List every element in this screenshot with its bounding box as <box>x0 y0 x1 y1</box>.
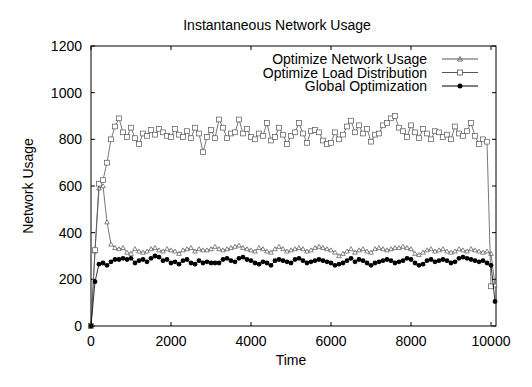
x-tick-label: 4000 <box>235 333 266 349</box>
data-point <box>353 259 358 264</box>
data-point <box>237 117 242 122</box>
data-point <box>153 132 158 137</box>
data-point <box>165 257 170 262</box>
data-point <box>185 257 190 262</box>
data-point <box>165 247 170 251</box>
data-point <box>401 129 406 134</box>
y-tick-label: 600 <box>59 178 83 194</box>
data-point <box>141 257 146 262</box>
data-point <box>297 246 302 250</box>
data-point <box>213 136 218 141</box>
legend: Optimize Network Usage Optimize Load Dis… <box>263 51 478 94</box>
data-point <box>401 258 406 263</box>
plot-frame <box>91 46 496 326</box>
data-point <box>369 263 374 268</box>
data-point <box>357 123 362 128</box>
data-point <box>217 117 222 122</box>
data-point <box>93 248 98 253</box>
x-axis: 0200040006000800010000 <box>87 46 511 349</box>
x-tick-label: 8000 <box>395 333 426 349</box>
y-tick-label: 200 <box>59 271 83 287</box>
data-point <box>197 258 202 263</box>
data-point <box>377 246 382 250</box>
data-point <box>277 125 282 130</box>
data-point <box>285 142 290 147</box>
data-point <box>385 121 390 126</box>
data-point <box>105 263 110 268</box>
data-point <box>361 258 366 263</box>
data-point <box>409 123 414 128</box>
data-point <box>485 261 490 266</box>
data-point <box>485 139 490 144</box>
data-point <box>393 114 398 119</box>
data-point <box>201 150 206 155</box>
series-global-optimization <box>89 254 498 329</box>
data-point <box>421 126 426 131</box>
data-point <box>445 258 450 263</box>
data-point <box>341 132 346 137</box>
data-point <box>89 324 94 329</box>
data-point <box>485 249 490 253</box>
filled-circle-marker-icon <box>458 84 463 89</box>
data-point <box>281 132 286 137</box>
data-point <box>133 136 138 141</box>
data-point <box>213 244 218 248</box>
data-point <box>465 129 470 134</box>
data-point <box>101 178 106 183</box>
data-point <box>257 246 262 250</box>
data-point <box>425 131 430 136</box>
data-point <box>429 247 434 251</box>
data-point <box>389 258 394 263</box>
x-tick-label: 0 <box>87 333 95 349</box>
data-point <box>341 261 346 266</box>
data-point <box>173 126 178 131</box>
data-point <box>221 125 226 130</box>
data-point <box>169 135 174 140</box>
square-marker-icon <box>458 70 463 75</box>
data-point <box>109 137 114 142</box>
data-point <box>197 247 202 251</box>
data-point <box>209 128 214 133</box>
data-point <box>173 259 178 264</box>
data-point <box>265 121 270 126</box>
data-point <box>113 124 118 129</box>
data-point <box>445 132 450 137</box>
data-point <box>441 247 446 251</box>
data-point <box>429 137 434 142</box>
data-point <box>241 131 246 136</box>
data-point <box>429 257 434 262</box>
data-point <box>217 261 222 266</box>
y-tick-label: 1000 <box>51 85 82 101</box>
data-point <box>353 130 358 135</box>
data-point <box>401 244 406 248</box>
data-point <box>109 259 114 264</box>
data-point <box>145 259 150 264</box>
data-point <box>345 258 350 263</box>
data-point <box>225 136 230 141</box>
y-tick-label: 400 <box>59 225 83 241</box>
data-point <box>457 247 462 251</box>
data-point <box>193 125 198 130</box>
data-point <box>197 131 202 136</box>
y-tick-label: 800 <box>59 131 83 147</box>
data-point <box>257 262 262 267</box>
data-point <box>361 131 366 136</box>
data-point <box>405 135 410 140</box>
data-point <box>129 125 134 130</box>
data-point <box>233 259 238 264</box>
data-point <box>461 133 466 138</box>
data-point <box>365 126 370 131</box>
data-point <box>181 135 186 140</box>
data-point <box>301 258 306 263</box>
data-point <box>413 130 418 135</box>
data-point <box>289 261 294 266</box>
data-point <box>109 242 114 246</box>
data-point <box>129 256 134 261</box>
data-point <box>297 121 302 126</box>
data-point <box>377 131 382 136</box>
data-point <box>409 257 414 262</box>
data-point <box>265 261 270 266</box>
data-point <box>121 246 126 250</box>
data-point <box>489 284 494 289</box>
data-point <box>361 247 366 251</box>
